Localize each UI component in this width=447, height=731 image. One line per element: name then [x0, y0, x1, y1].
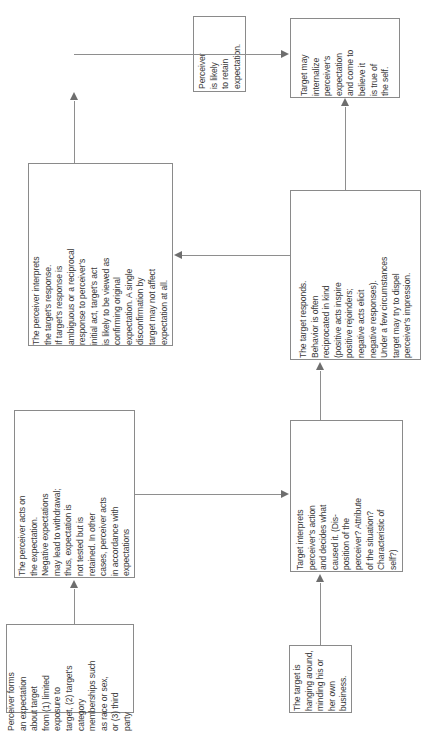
node-perceiver-acts-on-expectation-text: The perceiver acts on the expectation. N…	[17, 412, 133, 576]
node-target-internalizes-expectation-text: Target may internalize perceiver's expec…	[299, 20, 392, 96]
node-target-interprets-perceiver-action: Target interprets perceiver's action and…	[290, 420, 403, 572]
edge-perceiver-forms-to-perceiver-acts-arrowhead	[70, 580, 78, 588]
edge-perceiver-acts-to-target-interprets-arrowhead	[281, 490, 289, 498]
edge-perceiver-forms-to-perceiver-acts-line	[74, 589, 75, 624]
edge-target-hanging-to-target-interprets-line	[320, 583, 321, 645]
node-target-hanging-around: The target is hanging around, minding hi…	[289, 645, 352, 713]
edge-perceiver-retains-to-target-internalizes-arrowhead	[281, 50, 289, 58]
edge-perceiver-retains-to-target-internalizes-line	[74, 54, 282, 55]
node-target-internalizes-expectation: Target may internalize perceiver's expec…	[290, 18, 400, 98]
edge-perceiver-acts-to-target-interprets-line	[135, 494, 282, 495]
edge-target-hanging-to-target-interprets-arrowhead	[316, 574, 324, 582]
edge-perceiver-interprets-to-perceiver-retains-line	[74, 101, 75, 163]
node-target-responds-text: The target responds. Behavior is often r…	[298, 192, 414, 358]
node-perceiver-interprets-response-text: The perceiver interprets the target's re…	[31, 165, 170, 345]
edge-target-responds-to-target-internalizes-line	[345, 107, 346, 190]
edge-target-interprets-to-target-responds-line	[320, 371, 321, 420]
edge-target-responds-to-target-internalizes-arrowhead	[341, 98, 349, 106]
node-target-interprets-perceiver-action-text: Target interprets perceiver's action and…	[294, 422, 398, 570]
node-perceiver-interprets-response: The perceiver interprets the target's re…	[28, 163, 173, 346]
node-perceiver-forms-expectation-text: Perceiver forms an expectation about tar…	[6, 607, 134, 731]
edge-perceiver-interprets-to-perceiver-retains-arrowhead	[70, 92, 78, 100]
node-perceiver-forms-expectation: Perceiver forms an expectation about tar…	[6, 624, 134, 713]
node-perceiver-acts-on-expectation: The perceiver acts on the expectation. N…	[14, 410, 135, 578]
edge-target-responds-to-perceiver-interprets-line	[182, 255, 290, 256]
edge-target-interprets-to-target-responds-arrowhead	[316, 362, 324, 370]
node-target-hanging-around-text: The target is hanging around, minding hi…	[292, 647, 350, 711]
node-target-responds: The target responds. Behavior is often r…	[290, 190, 421, 360]
edge-target-responds-to-perceiver-interprets-arrowhead	[174, 251, 182, 259]
